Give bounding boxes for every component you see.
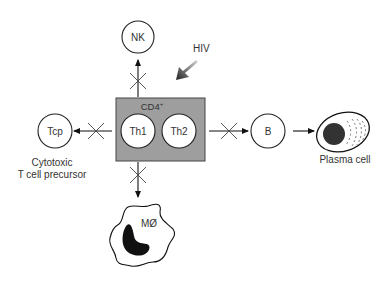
tcp-cell: Tcp [38, 114, 72, 148]
tcp-caption-line1: Cytotoxic [31, 157, 72, 168]
cd4-superscript: + [160, 101, 164, 107]
plasma-cell [311, 106, 374, 159]
nk-label: NK [131, 32, 145, 43]
th1-label: Th1 [129, 126, 147, 137]
tcp-label: Tcp [47, 126, 63, 137]
b-label: B [265, 126, 272, 137]
plasma-label: Plasma cell [319, 154, 370, 165]
blocked-arrow-to-nk [130, 60, 146, 97]
nk-cell: NK [122, 21, 154, 53]
cd4-box: CD4+ Th1 Th2 [116, 98, 205, 161]
blocked-arrow-to-macrophage [130, 162, 146, 197]
tcp-caption-line2: T cell precursor [18, 169, 87, 180]
immune-diagram: NK HIV CD4+ Th1 Th2 Tcp Cytoto [0, 0, 390, 281]
blocked-arrow-to-b [209, 123, 248, 139]
blocked-arrow-to-tcp [74, 123, 112, 139]
macrophage-cell [110, 204, 175, 266]
macrophage-label: MØ [141, 218, 157, 229]
hiv-arrow-icon [176, 60, 198, 80]
nucleus-icon [323, 123, 345, 145]
hiv-label: HIV [193, 43, 210, 54]
th2-label: Th2 [170, 126, 188, 137]
b-cell: B [251, 114, 285, 148]
cd4-title: CD4 [141, 101, 160, 112]
